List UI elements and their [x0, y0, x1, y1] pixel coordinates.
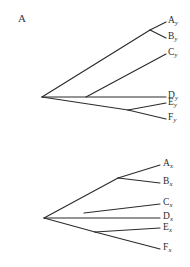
branch-x-tip-a	[118, 165, 160, 178]
branch-y-root-to-ab	[42, 30, 150, 97]
tip-base-cy: C	[168, 47, 174, 57]
tip-label-cx: Cx	[163, 198, 172, 208]
tip-sub-cy: y	[175, 51, 178, 58]
branch-x-tip-f	[95, 232, 160, 249]
tip-sub-fx: x	[168, 246, 171, 253]
tip-label-cy: Cy	[168, 48, 177, 58]
tip-base-cx: C	[163, 197, 169, 207]
tip-sub-cx: x	[170, 201, 173, 208]
tip-label-fx: Fx	[163, 243, 171, 253]
tip-sub-ey: y	[174, 101, 177, 108]
tip-base-ax: A	[163, 158, 170, 168]
branch-x-tip-b	[118, 178, 160, 183]
tip-base-ey: E	[168, 97, 174, 107]
branch-y-tip-a	[150, 22, 166, 30]
tip-base-dx: D	[163, 211, 170, 221]
tip-sub-ay: y	[175, 19, 178, 26]
tip-sub-bx: x	[170, 180, 173, 187]
tip-label-ex: Ex	[163, 223, 172, 233]
figure-canvas: A	[0, 0, 190, 267]
tip-label-ay: Ay	[168, 16, 178, 26]
tip-label-bx: Bx	[163, 177, 172, 187]
branch-y-root-to-ef	[42, 97, 128, 110]
tip-label-dx: Dx	[163, 212, 173, 222]
tip-base-bx: B	[163, 176, 169, 186]
tip-sub-by: y	[175, 35, 178, 42]
tip-label-ax: Ax	[163, 159, 173, 169]
tip-label-fy: Fy	[168, 113, 176, 123]
tip-sub-dx: x	[170, 215, 173, 222]
cladogram-lines	[0, 0, 190, 267]
tip-base-ay: A	[168, 15, 175, 25]
branch-x-root-to-ab	[44, 178, 118, 218]
branch-y-tip-c	[86, 54, 166, 97]
tip-base-by: B	[168, 31, 174, 41]
branch-y-tip-b	[150, 30, 166, 38]
branch-y-tip-e	[128, 103, 166, 110]
tip-label-by: By	[168, 32, 177, 42]
branch-x-root-to-ef	[44, 218, 95, 232]
tip-label-ey: Ey	[168, 98, 177, 108]
tip-sub-fy: y	[173, 116, 176, 123]
tip-base-ex: E	[163, 222, 169, 232]
branch-x-tip-c	[84, 204, 160, 213]
tip-sub-ex: x	[169, 226, 172, 233]
branch-x-tip-e	[95, 228, 160, 232]
tip-sub-ax: x	[170, 162, 173, 169]
branch-y-tip-f	[128, 110, 166, 119]
